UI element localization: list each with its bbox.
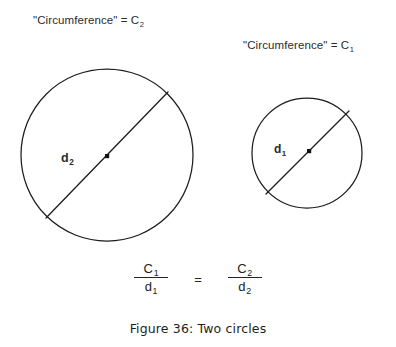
figure-container: "Circumference" = C2 "Circumference" = C…	[0, 0, 396, 347]
right-fraction-numerator: C2	[230, 262, 259, 277]
large-circle-diameter-text: d	[61, 151, 69, 165]
large-circle-circumference-label: "Circumference" = C2	[33, 15, 144, 27]
small-circle-circumference-label: "Circumference" = C1	[243, 40, 354, 52]
left-fraction: C1 d1	[134, 262, 168, 294]
right-fraction: C2 d2	[228, 262, 262, 294]
left-numerator-subscript: 1	[153, 268, 159, 278]
left-denominator-symbol: d	[145, 279, 152, 294]
left-fraction-denominator: d1	[138, 278, 165, 294]
right-denominator-symbol: d	[238, 279, 245, 294]
small-circle-circumference-subscript: 1	[349, 45, 354, 54]
large-circle-circumference-text: "Circumference" = C	[33, 14, 139, 26]
large-circle-circumference-subscript: 2	[139, 20, 144, 29]
small-circle-circumference-text: "Circumference" = C	[243, 39, 349, 51]
large-circle-diameter-subscript: 2	[69, 158, 74, 167]
left-denominator-subscript: 1	[152, 286, 158, 296]
proportion-equation: C1 d1 = C2 d2	[0, 262, 396, 294]
large-circle-center-dot	[105, 154, 109, 158]
right-fraction-denominator: d2	[231, 278, 258, 294]
left-numerator-symbol: C	[144, 261, 154, 276]
right-numerator-subscript: 2	[247, 268, 253, 278]
small-circle-center-dot	[307, 149, 311, 153]
small-circle-diameter-subscript: 1	[281, 149, 286, 158]
small-circle-diameter-label: d1	[274, 143, 286, 155]
left-fraction-numerator: C1	[137, 262, 166, 277]
equals-sign: =	[194, 272, 202, 287]
figure-caption: Figure 36: Two circles	[0, 321, 396, 336]
right-numerator-symbol: C	[237, 261, 247, 276]
right-denominator-subscript: 2	[246, 286, 252, 296]
two-circles-drawing	[0, 0, 396, 347]
large-circle-diameter-label: d2	[61, 152, 74, 165]
